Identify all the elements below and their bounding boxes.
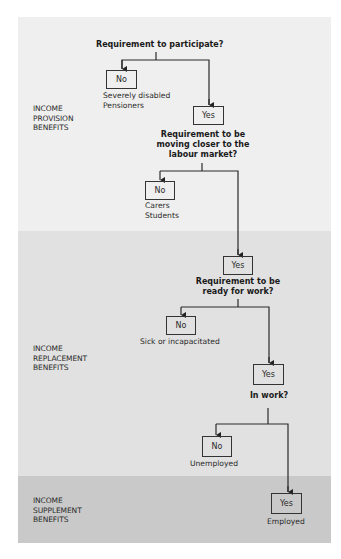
question-line: labour market? [150, 150, 256, 160]
question-line: Requirement to be [150, 130, 256, 140]
label-line: INCOME [33, 496, 82, 506]
no-box-moving-closer: No [145, 181, 175, 200]
label-line: BENEFITS [33, 515, 82, 525]
category-label-income-replacement: INCOME REPLACEMENT BENEFITS [33, 344, 87, 373]
label-line: PROVISION [33, 114, 73, 124]
outcome-yes-in-work: Employed [267, 517, 305, 527]
label-line: SUPPLEMENT [33, 506, 82, 516]
outcome-line: Sick or incapacitated [140, 337, 220, 347]
question-line: Requirement to be [185, 277, 291, 287]
outcome-line: Severely disabled [103, 91, 170, 101]
no-box-in-work: No [202, 436, 232, 457]
question-line: Requirement to participate? [96, 40, 216, 50]
yes-box-participate: Yes [193, 106, 224, 125]
question-line: ready for work? [185, 287, 291, 297]
yes-box-ready-for-work: Yes [253, 364, 284, 385]
outcome-no-moving-closer: Carers Students [145, 201, 179, 220]
question-ready-for-work: Requirement to be ready for work? [185, 277, 291, 297]
outcome-no-participate: Severely disabled Pensioners [103, 91, 170, 110]
outcome-line: Carers [145, 201, 179, 211]
label-line: INCOME [33, 104, 73, 114]
category-label-income-supplement: INCOME SUPPLEMENT BENEFITS [33, 496, 82, 525]
question-line: In work? [240, 391, 298, 401]
yes-box-moving-closer: Yes [223, 256, 253, 275]
outcome-line: Pensioners [103, 101, 170, 111]
category-label-income-provision: INCOME PROVISION BENEFITS [33, 104, 73, 133]
yes-box-in-work: Yes [271, 493, 302, 514]
outcome-line: Unemployed [190, 459, 238, 469]
outcome-no-ready-for-work: Sick or incapacitated [140, 337, 220, 347]
question-line: moving closer to the [150, 140, 256, 150]
label-line: BENEFITS [33, 123, 73, 133]
label-line: BENEFITS [33, 363, 87, 373]
no-box-ready-for-work: No [166, 316, 196, 335]
label-line: INCOME [33, 344, 87, 354]
outcome-no-in-work: Unemployed [190, 459, 238, 469]
question-participate: Requirement to participate? [96, 40, 216, 50]
question-moving-closer: Requirement to be moving closer to the l… [150, 130, 256, 160]
outcome-line: Students [145, 211, 179, 221]
question-in-work: In work? [240, 391, 298, 401]
no-box-participate: No [106, 70, 137, 89]
outcome-line: Employed [267, 517, 305, 527]
label-line: REPLACEMENT [33, 354, 87, 364]
